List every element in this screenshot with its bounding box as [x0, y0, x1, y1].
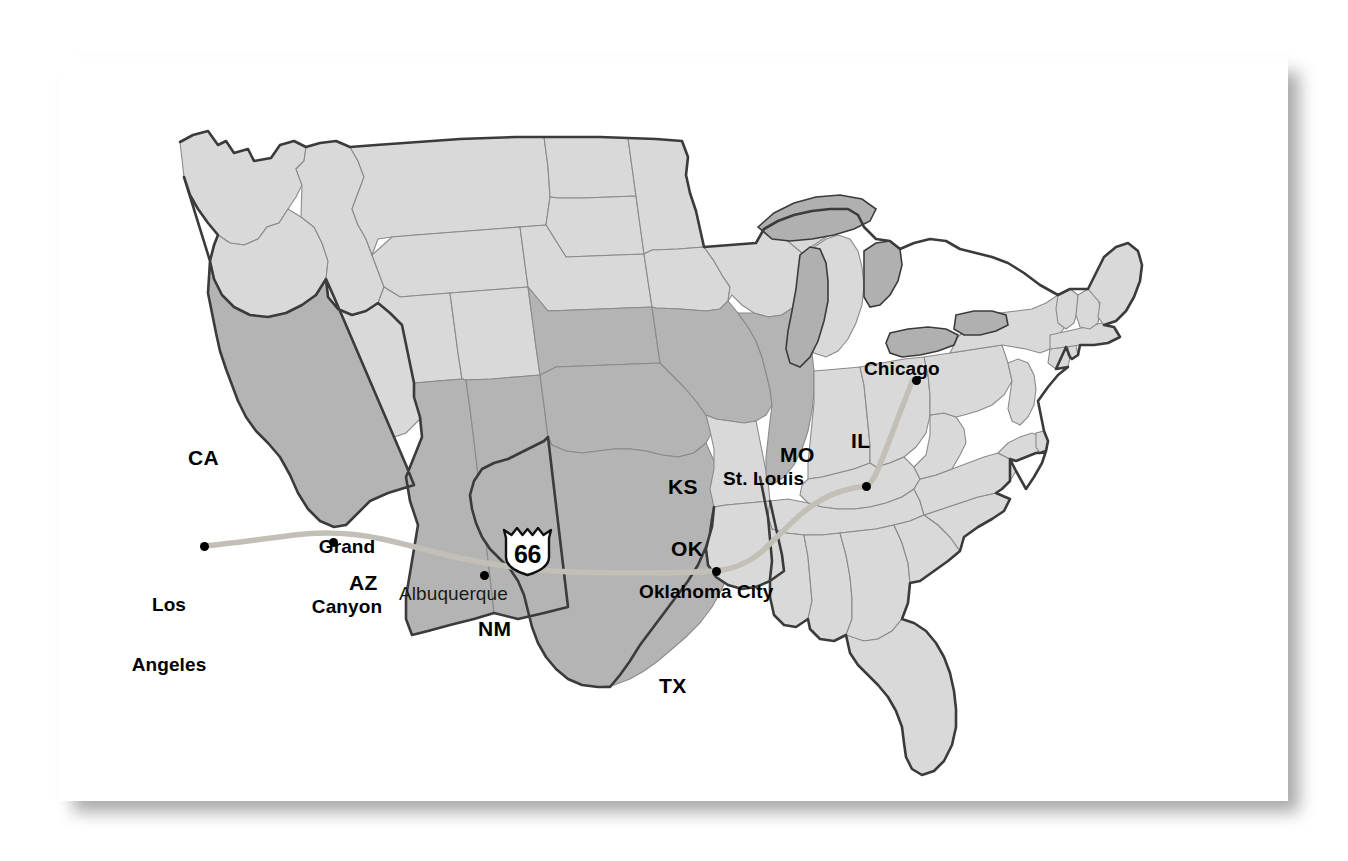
lake-huron [864, 241, 902, 307]
map-screenshot: .st { fill:#d9d9d9; stroke:#8a8a8a; stro… [0, 0, 1348, 861]
map-card: .st { fill:#d9d9d9; stroke:#8a8a8a; stro… [58, 57, 1288, 801]
usa-map-svg: .st { fill:#d9d9d9; stroke:#8a8a8a; stro… [58, 57, 1288, 801]
state-ar [706, 415, 770, 507]
state-pa [924, 345, 1012, 417]
city-dot-los-angeles [200, 542, 209, 551]
state-in [808, 367, 870, 479]
city-dot-albuquerque [480, 571, 489, 580]
state-co [450, 287, 540, 380]
state-oh [860, 357, 930, 467]
lake-erie [886, 327, 958, 357]
state-wy [372, 227, 528, 297]
city-dot-st-louis [862, 482, 871, 491]
state-nj [1008, 359, 1036, 425]
state-nd [544, 137, 636, 198]
shield-number: 66 [501, 540, 554, 569]
poi-dot-grand-canyon [329, 538, 338, 547]
states-layer [180, 131, 1142, 775]
city-dot-oklahoma-city [712, 567, 721, 576]
city-dot-chicago [912, 376, 921, 385]
us-route-66-shield: 66 [501, 527, 554, 577]
state-fl [846, 619, 956, 775]
